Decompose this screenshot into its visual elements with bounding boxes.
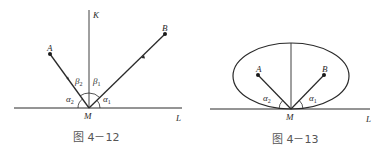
figure-4-12: K A B M L α2 α1 β2 β1 图 4－12 (14, 10, 182, 144)
arc-beta2 (80, 93, 89, 96)
label-beta2: β2 (74, 76, 82, 87)
label-alpha2: α2 (263, 93, 271, 104)
label-M: M (285, 112, 294, 122)
label-B: B (162, 23, 168, 33)
label-L: L (175, 113, 181, 123)
label-K: K (92, 10, 100, 20)
label-alpha1: α1 (309, 93, 317, 104)
caption-fig-4-12: 图 4－12 (73, 131, 120, 144)
arc-alpha2 (78, 99, 83, 108)
ray-A-M (258, 75, 291, 109)
label-L: L (365, 114, 371, 124)
arc-alpha1 (97, 100, 100, 108)
label-alpha1: α1 (103, 94, 111, 105)
ray-M-B (291, 75, 324, 109)
label-A: A (46, 43, 53, 53)
diagram-canvas: K A B M L α2 α1 β2 β1 图 4－12 A B M L α2 … (0, 0, 381, 153)
arc-beta1 (89, 93, 100, 98)
caption-fig-4-13: 图 4－13 (272, 133, 319, 146)
ray-M-B (89, 34, 165, 108)
arc-alpha2 (279, 100, 283, 109)
label-alpha2: α2 (66, 94, 74, 105)
label-B: B (322, 64, 328, 74)
label-beta1: β1 (92, 76, 100, 87)
arc-alpha1 (299, 100, 303, 109)
figure-4-13: A B M L α2 α1 图 4－13 (210, 43, 371, 146)
label-A: A (255, 64, 262, 74)
label-M: M (83, 111, 92, 121)
